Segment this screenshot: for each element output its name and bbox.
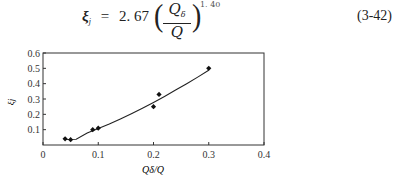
scatter-chart: 0.10.20.30.40.50.6 00.10.20.30.4 ξj Qδ/Q xyxy=(0,0,403,185)
y-tick-label: 0.5 xyxy=(28,63,41,74)
y-tick-label: 0.1 xyxy=(28,124,41,135)
x-tick-label: 0 xyxy=(41,149,46,160)
y-axis-label: ξj xyxy=(6,98,16,105)
x-tick-label: 0.4 xyxy=(258,149,271,160)
fit-curve xyxy=(65,70,209,139)
data-points xyxy=(63,66,212,143)
y-tick-label: 0.2 xyxy=(28,109,41,120)
x-tick-label: 0.3 xyxy=(203,149,216,160)
x-tick-label: 0.2 xyxy=(147,149,160,160)
data-point xyxy=(96,126,101,131)
y-tick-label: 0.3 xyxy=(28,94,41,105)
data-point xyxy=(156,92,161,97)
y-tick-label: 0.4 xyxy=(28,78,41,89)
data-point xyxy=(63,136,68,141)
data-point xyxy=(151,104,156,109)
data-point xyxy=(206,66,211,71)
y-tick-label: 0.6 xyxy=(28,48,41,59)
x-tick-label: 0.1 xyxy=(92,149,105,160)
plot-frame xyxy=(43,53,264,145)
data-point xyxy=(68,137,73,142)
x-axis-label: Qδ/Q xyxy=(142,164,165,175)
